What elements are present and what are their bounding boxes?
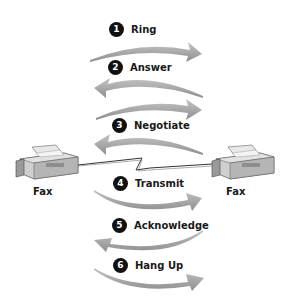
step-ring: 1 Ring <box>109 21 156 37</box>
step-answer: 2 Answer <box>108 59 172 75</box>
arrow-left-acknowledge <box>94 230 203 252</box>
fax-left-label: Fax <box>33 186 52 197</box>
step-number-badge: 6 <box>113 258 128 273</box>
arrow-left-answer <box>94 78 203 98</box>
step-hang-up: 6 Hang Up <box>113 257 183 273</box>
arrow-right-transmit <box>94 190 202 211</box>
step-number-badge: 4 <box>113 176 128 191</box>
step-number-badge: 5 <box>112 218 127 233</box>
fax-handshake-diagram: Fax Fax 1 Ring 2 Answer 3 Negotiate 4 Tr… <box>0 0 288 303</box>
step-transmit: 4 Transmit <box>113 175 184 191</box>
step-number-badge: 2 <box>108 60 123 75</box>
step-number-badge: 1 <box>109 22 124 37</box>
phone-line-icon <box>78 158 212 171</box>
step-label: Acknowledge <box>134 220 209 231</box>
fax-machine-left-icon <box>16 145 78 179</box>
fax-machine-right-icon <box>212 145 274 179</box>
step-label: Answer <box>130 62 172 73</box>
step-label: Ring <box>131 24 156 35</box>
step-label: Negotiate <box>134 120 190 131</box>
step-label: Transmit <box>135 178 184 189</box>
step-negotiate: 3 Negotiate <box>112 117 190 133</box>
step-label: Hang Up <box>135 260 183 271</box>
arrow-left-negotiate <box>94 134 203 155</box>
step-acknowledge: 5 Acknowledge <box>112 217 209 233</box>
fax-right-label: Fax <box>226 186 245 197</box>
step-number-badge: 3 <box>112 118 127 133</box>
